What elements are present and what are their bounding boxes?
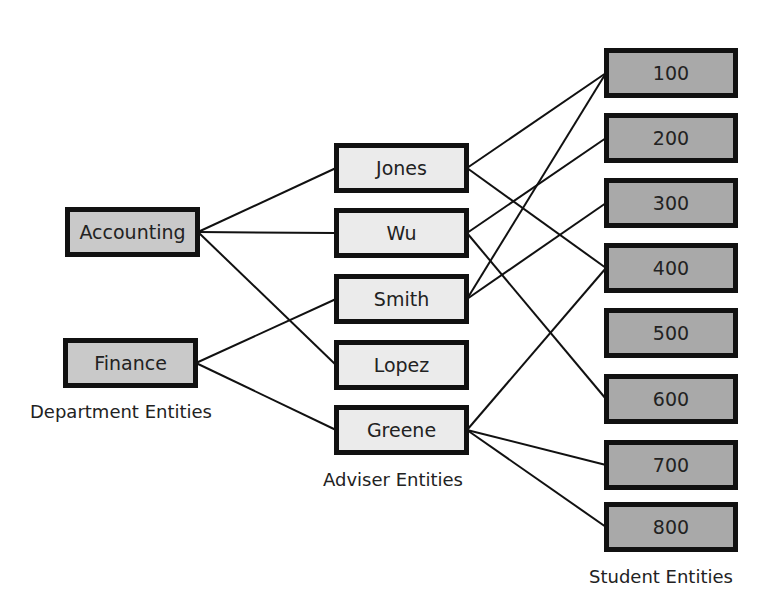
entity-label: 100 [653,62,689,84]
entity-label: 500 [653,322,689,344]
entity-label: Wu [386,222,416,244]
department-entity: Finance [63,338,198,388]
link-line [467,73,606,299]
link-line [198,232,336,365]
entity-label: 700 [653,454,689,476]
department-entity: Accounting [65,207,200,257]
adviser-entities-label: Adviser Entities [323,469,463,490]
entity-label: Accounting [79,221,185,243]
link-line [198,232,336,233]
adviser-entity: Jones [334,143,469,193]
entity-label: 800 [653,516,689,538]
student-entity: 300 [604,178,738,228]
entity-label: 400 [653,257,689,279]
link-line [198,168,336,232]
link-line [196,363,336,430]
student-entity: 600 [604,374,738,424]
link-line [467,268,606,430]
entity-label: 200 [653,127,689,149]
adviser-entity: Smith [334,274,469,324]
entity-label: Greene [367,419,436,441]
entity-label: 600 [653,388,689,410]
entity-label: Lopez [374,354,430,376]
entity-label: Finance [94,352,167,374]
student-entities-label: Student Entities [589,566,733,587]
student-entity: 500 [604,308,738,358]
student-entity: 400 [604,243,738,293]
student-entity: 200 [604,113,738,163]
link-line [467,73,606,168]
student-entity: 100 [604,48,738,98]
link-line [467,430,606,527]
entity-label: Jones [376,157,427,179]
entity-label: 300 [653,192,689,214]
adviser-entity: Greene [334,405,469,455]
link-line [467,233,606,399]
link-line [196,299,336,363]
adviser-entity: Lopez [334,340,469,390]
student-entity: 800 [604,502,738,552]
link-line [467,430,606,465]
department-entities-label: Department Entities [30,401,212,422]
adviser-entity: Wu [334,208,469,258]
student-entity: 700 [604,440,738,490]
entity-label: Smith [374,288,429,310]
